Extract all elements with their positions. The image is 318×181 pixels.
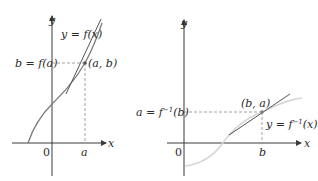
left-point-label: (a, b) [88, 57, 117, 70]
right-panel: y x 0 (b, a) b y = f−1(x) a = f−1(b) [136, 17, 318, 176]
right-curve-label-post: (x) [303, 118, 318, 131]
left-point-ab [83, 61, 87, 65]
right-origin-label: 0 [175, 146, 182, 159]
right-curve-label: y = f−1(x) [265, 118, 318, 131]
right-y-tick-label-pre: a = f [136, 106, 165, 119]
right-x-tick-label: b [259, 146, 266, 159]
right-point-label: (b, a) [241, 97, 270, 110]
left-curve-label: y = f(x) [60, 28, 102, 41]
left-x-axis-label: x [108, 137, 115, 150]
right-x-axis-label: x [304, 137, 311, 150]
right-curve-label-sup: −1 [293, 118, 303, 126]
right-curve-label-pre: y = f [265, 118, 294, 131]
right-y-tick-label-post: (b) [173, 106, 189, 119]
left-origin-label: 0 [43, 146, 50, 159]
left-y-tick-label: b = f(a) [15, 57, 57, 70]
right-point-ba [260, 110, 264, 114]
right-y-axis-label: y [180, 17, 188, 30]
right-y-tick-label: a = f−1(b) [136, 106, 189, 119]
left-x-tick-label: a [81, 146, 88, 159]
inverse-function-diagram: y x 0 y = f(x) (a, b) b = f(a) a y x 0 (… [0, 0, 318, 181]
right-y-tick-label-sup: −1 [163, 106, 173, 114]
left-y-axis-label: y [48, 14, 56, 27]
left-panel: y x 0 y = f(x) (a, b) b = f(a) a [12, 14, 117, 176]
